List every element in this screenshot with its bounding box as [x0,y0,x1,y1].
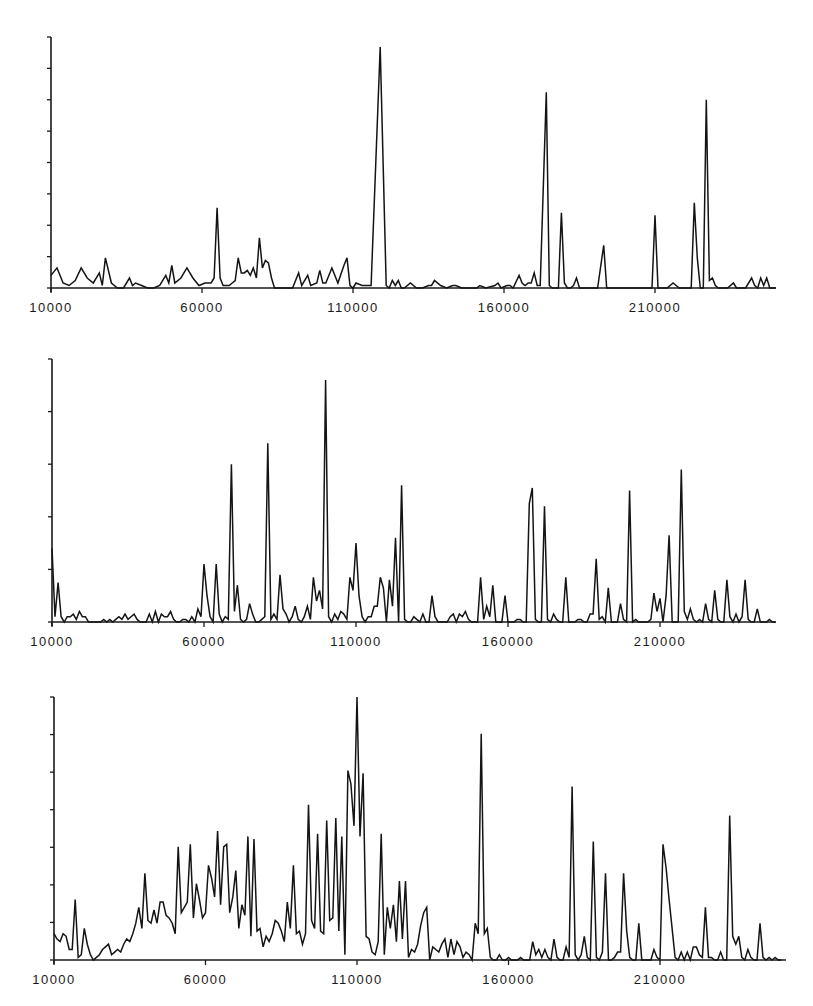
chart-figure: 1000060000110000160000210000 10000600001… [0,0,813,1006]
x-tick-label: 160000 [482,634,534,649]
trace-line [54,697,781,960]
x-tick-label: 160000 [482,972,534,987]
x-tick-label: 210000 [634,634,686,649]
chart-bottom: 1000060000110000160000210000 [32,697,786,987]
x-ticks: 1000060000110000160000210000 [32,960,686,987]
x-tick-label: 10000 [30,634,74,649]
x-tick-label: 110000 [330,634,381,649]
x-tick-label: 110000 [331,972,382,987]
trace-line [51,47,776,288]
x-tick-label: 10000 [29,300,73,315]
x-tick-label: 60000 [182,634,226,649]
x-ticks: 1000060000110000160000210000 [30,622,686,649]
x-tick-label: 110000 [327,300,378,315]
chart-middle: 1000060000110000160000210000 [30,359,776,649]
x-ticks: 1000060000110000160000210000 [29,288,681,315]
x-tick-label: 160000 [478,300,530,315]
x-tick-label: 60000 [180,300,224,315]
x-tick-label: 10000 [32,972,76,987]
x-tick-label: 60000 [184,972,228,987]
x-tick-label: 210000 [634,972,686,987]
trace-line [52,380,776,622]
x-tick-label: 210000 [629,300,681,315]
chart-top: 1000060000110000160000210000 [29,37,776,315]
